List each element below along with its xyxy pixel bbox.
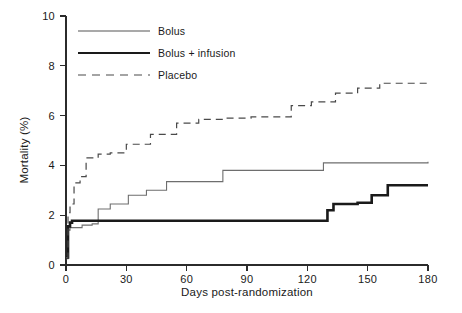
x-tick-label: 0 xyxy=(63,273,69,285)
series-group xyxy=(66,83,428,259)
mortality-survival-chart: 0246810 0306090120150180 Days post-rando… xyxy=(0,0,462,313)
x-tick-label: 150 xyxy=(358,273,377,285)
y-tick-group: 0246810 xyxy=(42,10,66,271)
y-tick-label: 10 xyxy=(42,10,55,22)
legend-label-placebo: Placebo xyxy=(158,69,197,81)
x-tick-label: 60 xyxy=(180,273,193,285)
x-tick-label: 120 xyxy=(298,273,317,285)
chart-canvas: 0246810 0306090120150180 Days post-rando… xyxy=(0,0,462,313)
legend-label-bolus-infusion: Bolus + infusion xyxy=(158,47,236,59)
x-tick-label: 180 xyxy=(418,273,437,285)
legend-label-bolus: Bolus xyxy=(158,25,185,37)
chart-legend: BolusBolus + infusionPlacebo xyxy=(78,25,236,81)
x-tick-label: 30 xyxy=(120,273,133,285)
y-tick-label: 6 xyxy=(49,110,55,122)
y-tick-label: 4 xyxy=(49,159,55,171)
y-tick-label: 0 xyxy=(49,259,55,271)
x-axis-title: Days post-randomization xyxy=(181,286,313,298)
y-axis-title: Mortality (%) xyxy=(18,116,30,183)
y-tick-label: 8 xyxy=(49,60,55,72)
x-tick-label: 90 xyxy=(241,273,254,285)
series-line-bolus-infusion xyxy=(66,185,428,257)
series-line-bolus xyxy=(66,162,428,259)
y-tick-label: 2 xyxy=(49,209,55,221)
x-tick-group: 0306090120150180 xyxy=(63,265,438,285)
